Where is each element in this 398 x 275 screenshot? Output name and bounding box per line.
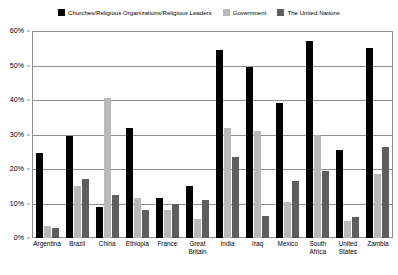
y-tick-mark bbox=[27, 169, 30, 170]
bar-group bbox=[243, 31, 273, 238]
x-tick-label: Ethiopia bbox=[120, 240, 154, 248]
y-tick-label: 30% bbox=[10, 131, 24, 138]
legend-swatch-icon bbox=[58, 9, 65, 16]
x-tick-label: China bbox=[90, 240, 124, 248]
legend-item[interactable]: Government bbox=[223, 9, 267, 16]
legend-label: The United Nations bbox=[287, 9, 340, 16]
bar-chart: Churches/Religious Organizations/Religio… bbox=[0, 0, 398, 275]
bar bbox=[142, 210, 149, 238]
x-tick-label: United States bbox=[331, 240, 365, 257]
bars-layer bbox=[32, 31, 393, 238]
x-tick-label: Zambia bbox=[361, 240, 395, 248]
y-tick-label: 0% bbox=[14, 235, 24, 242]
legend-swatch-icon bbox=[277, 9, 284, 16]
y-tick-mark bbox=[27, 238, 30, 239]
bar bbox=[254, 131, 261, 238]
bar bbox=[186, 186, 193, 238]
bar bbox=[336, 150, 343, 238]
y-tick-label: 50% bbox=[10, 62, 24, 69]
x-tick-label: India bbox=[211, 240, 245, 248]
bar bbox=[232, 157, 239, 238]
x-tick-label: Iraq bbox=[241, 240, 275, 248]
bar bbox=[224, 128, 231, 238]
bar bbox=[96, 207, 103, 238]
chart-legend: Churches/Religious Organizations/Religio… bbox=[0, 9, 398, 16]
bar-group bbox=[303, 31, 333, 238]
y-tick-label: 60% bbox=[10, 28, 24, 35]
bar bbox=[374, 174, 381, 238]
bar bbox=[172, 204, 179, 239]
y-tick-label: 40% bbox=[10, 97, 24, 104]
bar bbox=[292, 181, 299, 238]
bar bbox=[126, 128, 133, 238]
x-tick-label: Brazil bbox=[60, 240, 94, 248]
bar bbox=[66, 136, 73, 238]
x-tick-label: Argentina bbox=[30, 240, 64, 248]
bar bbox=[284, 202, 291, 238]
bar bbox=[366, 48, 373, 238]
bar bbox=[262, 216, 269, 238]
y-tick-mark bbox=[27, 203, 30, 204]
bar bbox=[36, 153, 43, 238]
bar bbox=[44, 226, 51, 238]
legend-label: Government bbox=[233, 9, 267, 16]
bar bbox=[134, 198, 141, 238]
y-tick-mark bbox=[27, 31, 30, 32]
legend-label: Churches/Religious Organizations/Religio… bbox=[68, 9, 212, 16]
bar bbox=[156, 198, 163, 238]
bar bbox=[306, 41, 313, 238]
x-tick-label: South Africa bbox=[301, 240, 335, 257]
x-tick-label: Mexico bbox=[271, 240, 305, 248]
y-tick-mark bbox=[27, 100, 30, 101]
bar bbox=[216, 50, 223, 238]
bar bbox=[104, 98, 111, 238]
bar bbox=[344, 221, 351, 238]
bar-group bbox=[122, 31, 152, 238]
y-tick-mark bbox=[27, 134, 30, 135]
bar bbox=[314, 135, 321, 239]
bar-group bbox=[273, 31, 303, 238]
y-tick-mark bbox=[27, 65, 30, 66]
bar-group bbox=[333, 31, 363, 238]
x-tick-label: Great Britain bbox=[180, 240, 214, 257]
bar bbox=[322, 171, 329, 238]
x-axis: ArgentinaBrazilChinaEthiopiaFranceGreat … bbox=[32, 240, 393, 274]
bar-group bbox=[152, 31, 182, 238]
bar bbox=[112, 195, 119, 238]
bar-group bbox=[213, 31, 243, 238]
bar bbox=[74, 186, 81, 238]
bar bbox=[194, 219, 201, 238]
legend-item[interactable]: The United Nations bbox=[277, 9, 340, 16]
x-tick-label: France bbox=[150, 240, 184, 248]
bar-group bbox=[62, 31, 92, 238]
bar bbox=[202, 200, 209, 238]
bar bbox=[276, 103, 283, 238]
bar bbox=[164, 210, 171, 238]
bar-group bbox=[363, 31, 393, 238]
legend-swatch-icon bbox=[223, 9, 230, 16]
bar bbox=[382, 147, 389, 238]
bar-group bbox=[32, 31, 62, 238]
bar bbox=[246, 67, 253, 238]
bar bbox=[352, 217, 359, 238]
bar-group bbox=[182, 31, 212, 238]
bar bbox=[82, 179, 89, 238]
legend-item[interactable]: Churches/Religious Organizations/Religio… bbox=[58, 9, 212, 16]
y-tick-label: 20% bbox=[10, 166, 24, 173]
bar-group bbox=[92, 31, 122, 238]
y-tick-label: 10% bbox=[10, 200, 24, 207]
bar bbox=[52, 228, 59, 238]
y-axis: 0%10%20%30%40%50%60% bbox=[0, 31, 30, 238]
